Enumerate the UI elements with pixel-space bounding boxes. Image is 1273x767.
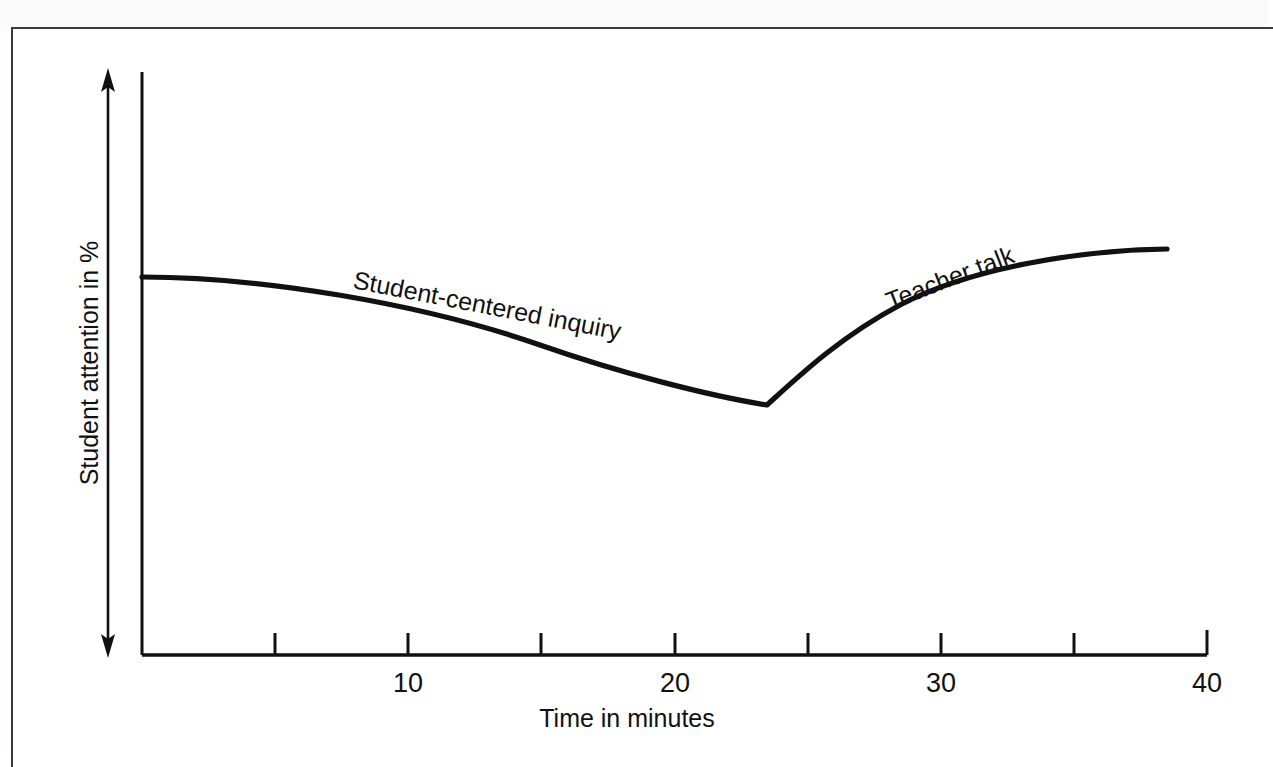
x-tick-label-20: 20 xyxy=(660,668,690,698)
y-axis-title: Student attention in % xyxy=(75,241,103,486)
attention-curve-line xyxy=(142,249,1167,405)
x-axis-title: Time in minutes xyxy=(539,704,715,732)
x-tick-label-40: 40 xyxy=(1192,668,1222,698)
annotation-teacher-talk: Teacher talk xyxy=(882,240,1018,315)
x-tick-label-10: 10 xyxy=(393,668,423,698)
y-axis-magnitude-arrow xyxy=(101,68,115,658)
x-axis-ticks xyxy=(275,630,1207,655)
x-tick-label-30: 30 xyxy=(926,668,956,698)
